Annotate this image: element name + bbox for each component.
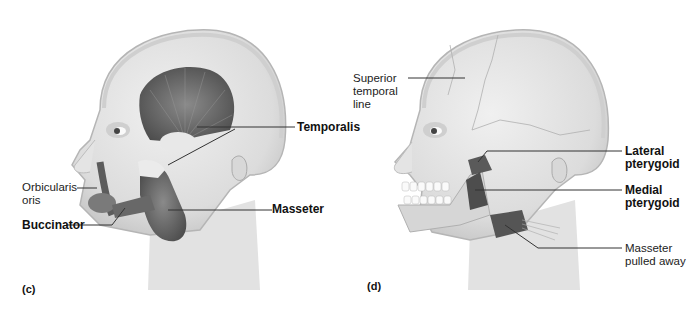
panel-d: Superior temporal line Lateral pterygoid… [350,0,699,310]
label-superior-temporal-line: Superior temporal line [353,72,398,111]
head-illustration-muscles [0,0,350,310]
label-buccinator: Buccinator [22,219,85,232]
label-medial-pterygoid: Medial pterygoid [625,184,680,210]
panel-c: Temporalis Orbicularis oris Buccinator M… [0,0,350,310]
label-lateral-pterygoid: Lateral pterygoid [625,145,680,171]
label-orbicularis-oris: Orbicularis oris [22,181,77,207]
label-masseter: Masseter [272,203,324,216]
panel-letter-d: (d) [367,280,381,292]
label-masseter-pulled-away: Masseter pulled away [625,242,686,268]
panel-letter-c: (c) [22,283,35,295]
